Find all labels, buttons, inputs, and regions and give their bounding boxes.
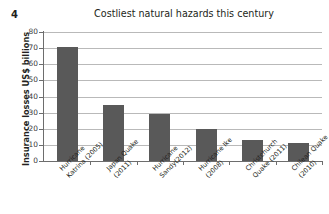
y-tick-label: 10 [14, 141, 38, 148]
y-tick-mark [39, 80, 43, 81]
y-tick-mark [39, 129, 43, 130]
y-tick-label: 20 [14, 125, 38, 132]
y-tick-mark [39, 48, 43, 49]
y-tick-mark [39, 161, 43, 162]
gridline [44, 113, 322, 114]
gridline [44, 97, 322, 98]
gridline [44, 48, 322, 49]
gridline [44, 64, 322, 65]
y-tick-mark [39, 145, 43, 146]
y-tick-mark [39, 97, 43, 98]
chart-title: Costliest natural hazards this century [44, 9, 324, 20]
y-tick-mark [39, 32, 43, 33]
y-tick-mark [39, 64, 43, 65]
y-axis-tick-labels: 80706050403020100 [8, 0, 38, 214]
bar [57, 47, 78, 162]
y-tick-label: 0 [14, 157, 38, 164]
y-tick-mark [39, 113, 43, 114]
y-tick-label: 40 [14, 93, 38, 100]
gridline [44, 80, 322, 81]
gridline [44, 32, 322, 33]
y-tick-label: 70 [14, 44, 38, 51]
y-tick-label: 60 [14, 60, 38, 67]
y-tick-label: 50 [14, 76, 38, 83]
y-tick-label: 80 [14, 28, 38, 35]
y-tick-label: 30 [14, 109, 38, 116]
